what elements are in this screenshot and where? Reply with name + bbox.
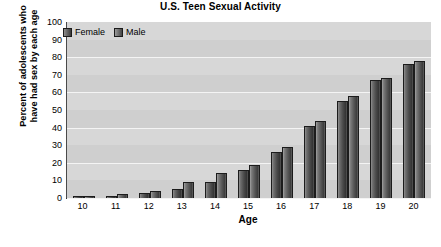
y-axis-tick-labels: 1009080706050403020100 xyxy=(30,0,62,247)
bar-male-age-11 xyxy=(117,194,128,198)
bar-group-age-13 xyxy=(166,22,199,198)
legend-swatch-icon-male xyxy=(114,28,123,37)
bar-female-age-15 xyxy=(238,170,249,198)
plot-area xyxy=(66,22,431,199)
x-axis-tick-20: 20 xyxy=(397,200,430,214)
bar-groups xyxy=(67,22,431,198)
bar-female-age-13 xyxy=(172,189,183,198)
bar-female-age-17 xyxy=(304,126,315,198)
bar-female-age-14 xyxy=(205,182,216,198)
legend-label-male: Male xyxy=(126,28,146,37)
bar-male-age-15 xyxy=(249,165,260,198)
bar-group-age-19 xyxy=(365,22,398,198)
bar-male-age-10 xyxy=(84,196,95,198)
bar-male-age-20 xyxy=(414,61,425,198)
legend-swatch-icon-female xyxy=(63,28,72,37)
bar-female-age-19 xyxy=(370,80,381,198)
x-axis-tick-11: 11 xyxy=(99,200,132,214)
bar-male-age-19 xyxy=(381,78,392,198)
y-axis-tick-10: 10 xyxy=(30,176,62,185)
bar-group-age-11 xyxy=(100,22,133,198)
x-axis-tick-17: 17 xyxy=(298,200,331,214)
y-axis-tick-90: 90 xyxy=(30,35,62,44)
y-axis-tick-30: 30 xyxy=(30,141,62,150)
bar-female-age-11 xyxy=(106,196,117,198)
bar-group-age-18 xyxy=(332,22,365,198)
gridline xyxy=(67,198,431,199)
y-axis-tick-100: 100 xyxy=(30,18,62,27)
legend-label-female: Female xyxy=(75,28,105,37)
bar-female-age-20 xyxy=(403,64,414,198)
bar-group-age-16 xyxy=(266,22,299,198)
x-axis-tick-labels: 1011121314151617181920 xyxy=(66,200,430,214)
x-axis-tick-10: 10 xyxy=(66,200,99,214)
bar-male-age-16 xyxy=(282,147,293,198)
y-axis-tick-40: 40 xyxy=(30,123,62,132)
bar-male-age-17 xyxy=(315,121,326,198)
x-axis-tick-18: 18 xyxy=(331,200,364,214)
bar-group-age-14 xyxy=(199,22,232,198)
bar-male-age-13 xyxy=(183,182,194,198)
y-axis-title-line-1: Percent of adolescents who xyxy=(18,0,29,141)
bar-group-age-20 xyxy=(398,22,431,198)
bar-male-age-18 xyxy=(348,96,359,198)
x-axis-tick-13: 13 xyxy=(165,200,198,214)
x-axis-tick-14: 14 xyxy=(198,200,231,214)
x-axis-tick-15: 15 xyxy=(231,200,264,214)
bar-group-age-15 xyxy=(232,22,265,198)
chart-legend: FemaleMale xyxy=(63,28,146,37)
bar-female-age-18 xyxy=(337,101,348,198)
bar-male-age-12 xyxy=(150,191,161,198)
bar-group-age-12 xyxy=(133,22,166,198)
x-axis-tick-19: 19 xyxy=(364,200,397,214)
bar-group-age-17 xyxy=(299,22,332,198)
x-axis-tick-16: 16 xyxy=(265,200,298,214)
chart-title: U.S. Teen Sexual Activity xyxy=(0,1,441,12)
y-axis-tick-50: 50 xyxy=(30,106,62,115)
bar-female-age-16 xyxy=(271,152,282,198)
y-axis-tick-0: 0 xyxy=(30,194,62,203)
legend-item-male[interactable]: Male xyxy=(114,28,146,37)
x-axis-title: Age xyxy=(66,214,430,225)
y-axis-tick-70: 70 xyxy=(30,70,62,79)
x-axis-tick-12: 12 xyxy=(132,200,165,214)
y-axis-tick-20: 20 xyxy=(30,158,62,167)
y-axis-tick-80: 80 xyxy=(30,53,62,62)
bar-group-age-10 xyxy=(67,22,100,198)
chart-container: U.S. Teen Sexual Activity Percent of ado… xyxy=(0,0,441,247)
legend-item-female[interactable]: Female xyxy=(63,28,105,37)
bar-female-age-12 xyxy=(139,193,150,198)
y-axis-tick-60: 60 xyxy=(30,88,62,97)
bar-female-age-10 xyxy=(73,196,84,198)
bar-male-age-14 xyxy=(216,173,227,198)
